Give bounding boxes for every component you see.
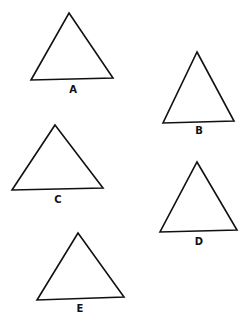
triangle-c bbox=[12, 125, 103, 190]
triangle-diagram: A B C D E bbox=[0, 0, 246, 325]
triangle-b bbox=[163, 52, 234, 123]
figure-e: E bbox=[37, 233, 124, 314]
figure-a: A bbox=[31, 13, 113, 95]
label-e: E bbox=[77, 303, 84, 314]
label-b: B bbox=[195, 125, 203, 136]
figure-b: B bbox=[163, 52, 234, 136]
triangle-d bbox=[160, 162, 237, 232]
label-d: D bbox=[195, 236, 203, 247]
label-a: A bbox=[69, 84, 77, 95]
label-c: C bbox=[54, 194, 61, 205]
figure-d: D bbox=[160, 162, 237, 247]
triangle-e bbox=[37, 233, 124, 300]
figure-c: C bbox=[12, 125, 103, 205]
triangle-a bbox=[31, 13, 113, 80]
